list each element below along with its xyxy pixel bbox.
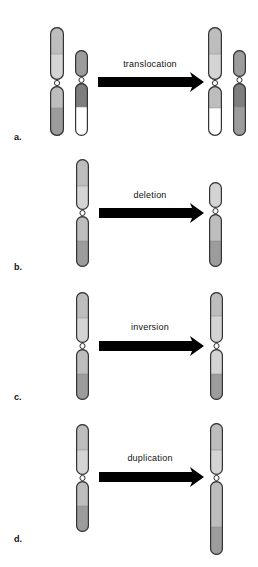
chromosome-band	[76, 217, 89, 241]
chromosome-arm-q	[210, 481, 223, 555]
chromosome-arm-p	[75, 50, 88, 77]
chromosome-band	[76, 292, 89, 318]
chromosome-band	[50, 108, 64, 136]
chromosome-arm-p	[76, 159, 89, 210]
chromosome-band	[209, 214, 222, 241]
centromere-icon	[212, 80, 217, 85]
panel-label-d: d.	[14, 534, 22, 544]
chromosome-band	[76, 506, 89, 532]
mutation-label-deletion: deletion	[95, 190, 205, 200]
centromere-icon	[79, 77, 84, 82]
arrow-icon-duplication	[99, 467, 204, 487]
chromosome-band	[76, 241, 89, 267]
chromosome-arm-p	[50, 27, 64, 80]
chromosome-band	[210, 350, 223, 374]
chromosome-before-translocation-0	[50, 27, 64, 136]
chromosome-band	[75, 50, 88, 77]
chromosome-band	[50, 54, 64, 80]
panel-label-a: a.	[14, 132, 22, 142]
centromere-icon	[214, 343, 219, 348]
chromosome-arm-q	[50, 86, 64, 136]
chromosome-band	[209, 241, 222, 267]
figure-canvas	[0, 0, 258, 567]
centromere-icon	[54, 80, 59, 85]
chromosome-band	[76, 482, 89, 506]
chromosome-arm-q	[76, 349, 89, 400]
chromosome-band	[76, 424, 89, 450]
chromosome-band	[75, 107, 88, 136]
chromosome-arm-p	[210, 423, 223, 475]
chromosome-band	[50, 27, 64, 54]
chromosome-band	[208, 108, 222, 136]
chromosome-band	[208, 54, 222, 80]
arrow-icon-translocation	[98, 72, 204, 92]
mutation-label-inversion: inversion	[95, 322, 205, 332]
chromosome-arm-q	[210, 349, 223, 400]
chromosome-before-deletion-0	[76, 159, 89, 267]
centromere-icon	[80, 343, 85, 348]
chromosome-arm-p	[208, 27, 222, 80]
chromosome-arm-q	[233, 83, 246, 136]
mutation-label-translocation: translocation	[95, 59, 205, 69]
chromosome-arm-q	[75, 83, 88, 136]
chromosome-band	[233, 107, 246, 136]
chromosome-after-translocation-1	[233, 50, 246, 136]
chromosome-arm-q	[76, 216, 89, 267]
arrow-icon-inversion	[99, 336, 204, 356]
centromere-icon	[213, 208, 218, 213]
centromere-icon	[214, 475, 219, 480]
mutation-label-duplication: duplication	[95, 453, 205, 463]
chromosome-arm-q	[209, 214, 222, 267]
centromere-icon	[80, 210, 85, 215]
chromosome-band	[233, 50, 246, 77]
chromosome-band	[76, 374, 89, 400]
chromosome-mutation-figure: a. translocation b. deletion c. inversio…	[0, 0, 258, 567]
chromosome-after-deletion-0	[209, 182, 222, 267]
chromosome-before-duplication-0	[76, 424, 89, 532]
chromosome-band	[208, 27, 222, 54]
chromosome-after-translocation-0	[208, 27, 222, 136]
chromosome-band	[210, 374, 223, 400]
chromosome-arm-p	[210, 292, 223, 343]
centromere-icon	[80, 475, 85, 480]
arrow-icon-deletion	[99, 203, 204, 223]
chromosome-arm-q	[76, 481, 89, 532]
chromosome-after-inversion-0	[210, 292, 223, 400]
panel-label-b: b.	[14, 262, 22, 272]
chromosome-arm-p	[76, 424, 89, 475]
chromosome-band	[209, 182, 222, 208]
chromosome-before-inversion-0	[76, 292, 89, 400]
chromosome-arm-p	[209, 182, 222, 208]
chromosome-band	[210, 316, 223, 343]
chromosome-band	[76, 350, 89, 374]
centromere-icon	[237, 77, 242, 82]
chromosome-band	[210, 423, 223, 450]
chromosome-band	[210, 482, 223, 527]
chromosome-arm-p	[233, 50, 246, 77]
chromosome-after-duplication-0	[210, 423, 223, 555]
chromosome-band	[210, 527, 223, 555]
panel-label-c: c.	[14, 392, 22, 402]
chromosome-band	[76, 159, 89, 186]
chromosome-arm-p	[76, 292, 89, 343]
chromosome-arm-q	[208, 86, 222, 136]
chromosome-before-translocation-1	[75, 50, 88, 136]
